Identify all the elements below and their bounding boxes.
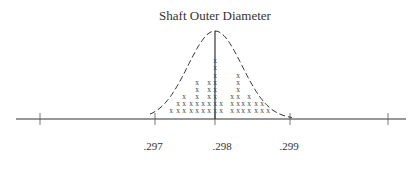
x-mark: x	[247, 92, 251, 101]
x-mark: x	[207, 78, 211, 87]
x-mark: x	[230, 92, 234, 101]
x-mark: x	[189, 99, 193, 108]
dot-plot-chart: xxxxxxxxxxxxxxxxxxxxxxxxxxxxxxxxxxxxxxxx…	[0, 0, 417, 171]
x-mark: x	[213, 56, 217, 65]
x-mark: x	[241, 99, 245, 108]
x-mark: x	[169, 106, 173, 115]
tick-label: .298	[212, 140, 232, 152]
x-mark: x	[182, 92, 186, 101]
x-mark: x	[201, 99, 205, 108]
tick-labels: .297.298.299	[143, 140, 299, 152]
x-mark: x	[236, 71, 240, 80]
x-mark: x	[260, 99, 264, 108]
tick-label: .297	[143, 140, 163, 152]
x-axis	[16, 113, 406, 125]
x-mark: x	[219, 99, 223, 108]
tick-label: .299	[279, 140, 299, 152]
x-mark: x	[266, 106, 270, 115]
x-mark: x	[195, 78, 199, 87]
x-mark: x	[176, 99, 180, 108]
x-marks: xxxxxxxxxxxxxxxxxxxxxxxxxxxxxxxxxxxxxxxx…	[169, 56, 270, 115]
x-mark: x	[254, 99, 258, 108]
